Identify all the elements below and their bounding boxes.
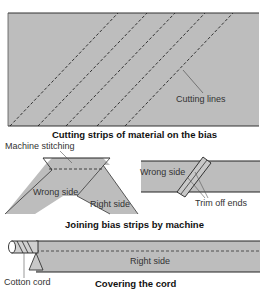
cord-right-side-label: Right side <box>130 257 170 266</box>
figure1-caption: Cutting strips of material on the bias <box>0 130 269 140</box>
bias-fabric-panel <box>8 13 259 126</box>
wrong-side-left-label: Wrong side <box>33 188 78 197</box>
figure2-caption: Joining bias strips by machine <box>0 220 269 230</box>
cord-end <box>9 241 16 253</box>
right-side-label: Right side <box>90 200 130 209</box>
cotton-cord-label: Cotton cord <box>4 278 51 287</box>
trim-off-ends-label: Trim off ends <box>195 199 247 208</box>
wrong-side-right-label: Wrong side <box>140 168 185 177</box>
figure3-caption: Covering the cord <box>95 279 176 289</box>
trimmed-strip <box>141 157 260 198</box>
machine-stitching-label: Machine stitching <box>5 142 75 151</box>
cutting-lines-label: Cutting lines <box>176 95 226 104</box>
